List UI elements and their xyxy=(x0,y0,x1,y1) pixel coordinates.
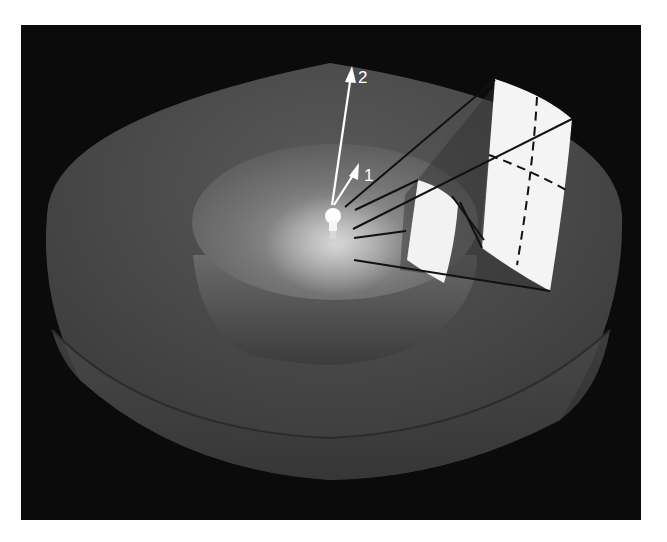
radius-label-1: 1 xyxy=(364,166,373,186)
hemisphere-diagram xyxy=(0,0,667,542)
radius-label-2: 2 xyxy=(358,68,367,88)
